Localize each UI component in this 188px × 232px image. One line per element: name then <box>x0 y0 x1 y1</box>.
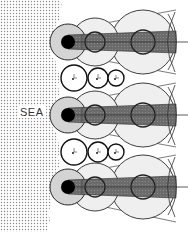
small-circle-row-a <box>61 65 124 91</box>
sea-label: SEA <box>18 106 46 118</box>
source-group-2 <box>50 83 188 147</box>
small-circle-row-b <box>61 139 124 165</box>
source-group-1 <box>50 10 188 74</box>
source-dot <box>61 35 75 49</box>
source-dot <box>61 108 75 122</box>
source-dot <box>61 180 75 194</box>
